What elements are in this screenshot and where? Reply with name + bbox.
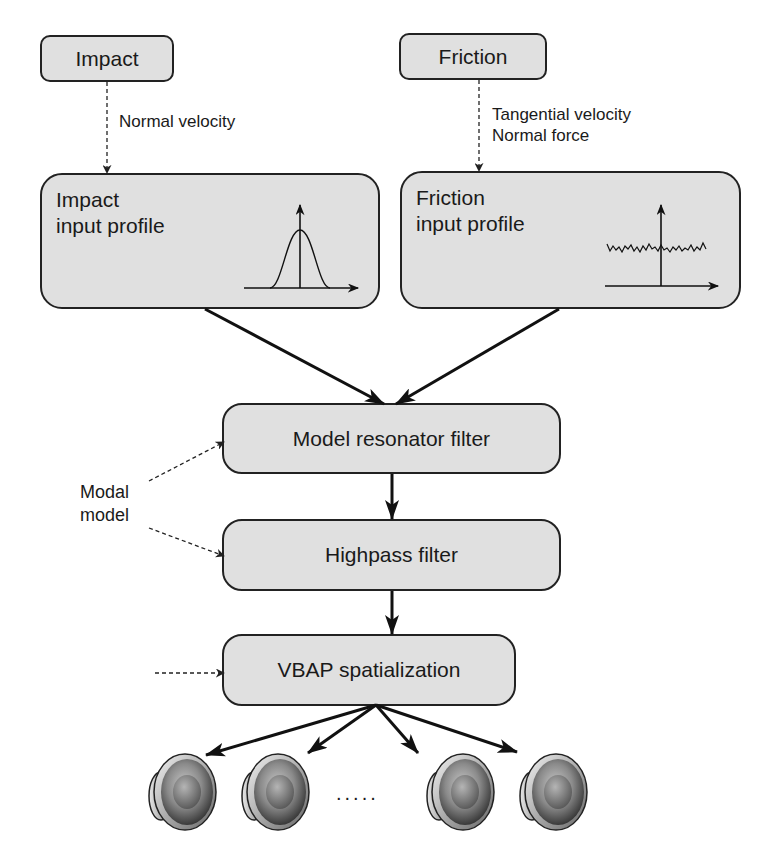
speaker-icon <box>520 754 587 830</box>
speaker-icon <box>149 754 216 830</box>
impact-profile-to-resonator-arrow <box>205 309 384 404</box>
diagram-connectors <box>0 0 773 861</box>
gaussian-pulse-plot-icon <box>244 205 358 288</box>
modal-to-resonator-arrow <box>149 442 224 481</box>
vbap-fanout-arrows <box>206 705 517 755</box>
modal-to-highpass-arrow <box>149 528 224 556</box>
noisy-signal-plot-icon <box>605 205 718 286</box>
friction-profile-to-resonator-arrow <box>396 309 559 404</box>
speaker-icon <box>427 754 494 830</box>
speaker-icon <box>242 754 309 830</box>
